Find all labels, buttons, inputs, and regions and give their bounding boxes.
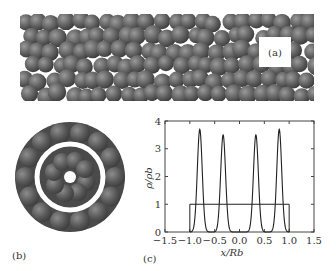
svg-text:0.5: 0.5 xyxy=(256,235,272,246)
svg-text:2: 2 xyxy=(155,171,161,182)
y-axis-label: ρ/ρb xyxy=(143,167,154,190)
svg-text:1: 1 xyxy=(155,199,161,210)
svg-text:1.5: 1.5 xyxy=(306,235,322,246)
svg-text:1.0: 1.0 xyxy=(281,235,297,246)
svg-text:3: 3 xyxy=(155,143,161,154)
panel-c-label: (c) xyxy=(143,253,157,264)
svg-text:4: 4 xyxy=(155,116,161,127)
panel-c-density-chart: −1.5−1.0−0.50.00.51.01.501234 (c) x/Rb ρ… xyxy=(0,0,336,271)
svg-text:−1.0: −1.0 xyxy=(178,235,202,246)
svg-text:0: 0 xyxy=(155,227,161,238)
x-axis-label: x/Rb xyxy=(221,247,244,258)
svg-text:0.0: 0.0 xyxy=(232,235,248,246)
svg-text:−0.5: −0.5 xyxy=(203,235,227,246)
